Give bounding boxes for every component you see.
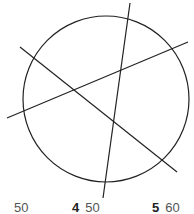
footer-label-3: 560 [152,201,180,214]
circle-lines-diagram [0,0,194,200]
footer-number-2: 4 [72,200,79,214]
footer-number-3: 5 [152,200,159,214]
footer-value-1: 50 [14,200,28,214]
footer-label-1: 50 [14,201,28,214]
footer-value-3: 60 [165,200,179,214]
shallow-line [7,42,188,118]
circle [23,16,189,182]
footer-value-2: 50 [85,200,99,214]
steep-line [103,3,130,198]
footer-label-2: 450 [72,201,100,214]
